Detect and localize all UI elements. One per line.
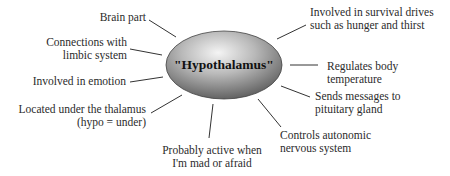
node-survival: Involved in survival drives such as hung…: [310, 6, 434, 32]
node-mad-afraid: Probably active when I'm mad or afraid: [152, 144, 272, 170]
node-text: Sends messages to: [315, 90, 401, 103]
node-text: temperature: [327, 73, 398, 86]
connector-pituitary: [281, 86, 310, 97]
node-autonomic: Controls autonomic nervous system: [280, 129, 371, 155]
node-text: Brain part: [100, 11, 146, 24]
node-pituitary: Sends messages to pituitary gland: [315, 90, 401, 116]
connector-emotion: [130, 77, 163, 82]
node-text: Regulates body: [327, 60, 398, 73]
connector-mad-afraid: [209, 104, 213, 138]
center-title: "Hypothalamus": [166, 31, 282, 99]
node-text: nervous system: [280, 142, 371, 155]
node-text: limbic system: [46, 49, 127, 62]
node-text: Located under the thalamus: [19, 103, 146, 116]
node-text: such as hunger and thirst: [310, 19, 434, 32]
connector-autonomic: [258, 99, 281, 127]
node-connections-limbic: Connections with limbic system: [46, 36, 127, 62]
node-text: Controls autonomic: [280, 129, 371, 142]
node-emotion: Involved in emotion: [33, 75, 126, 88]
node-text: (hypo = under): [19, 116, 146, 129]
node-text: Connections with: [46, 36, 127, 49]
connector-connections-limbic: [130, 49, 162, 55]
node-text: Probably active when: [152, 144, 272, 157]
node-text: Involved in survival drives: [310, 6, 434, 19]
node-text: Involved in emotion: [33, 75, 126, 88]
node-under-thalamus: Located under the thalamus (hypo = under…: [19, 103, 146, 129]
node-text: I'm mad or afraid: [152, 157, 272, 170]
node-text: pituitary gland: [315, 103, 401, 116]
concept-map: "Hypothalamus" Brain part Connections wi…: [0, 0, 450, 176]
node-brain-part: Brain part: [100, 11, 146, 24]
node-temperature: Regulates body temperature: [327, 60, 398, 86]
